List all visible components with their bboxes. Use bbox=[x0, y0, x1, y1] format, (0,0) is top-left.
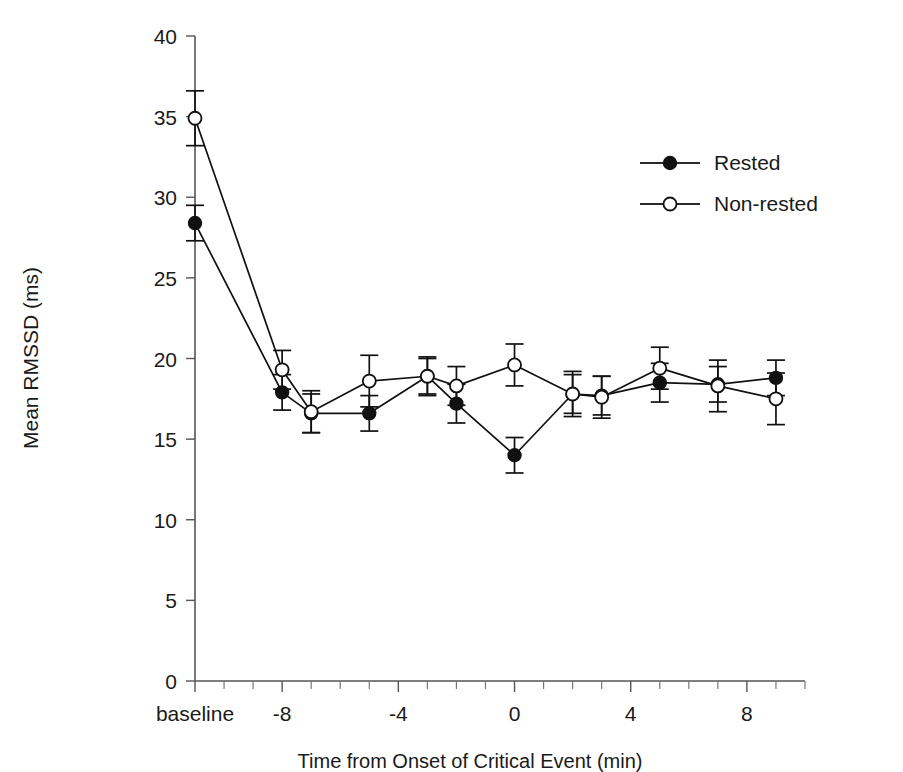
data-point-marker bbox=[189, 217, 202, 230]
series-layer bbox=[186, 91, 785, 473]
y-tick-label-5: 5 bbox=[165, 589, 177, 612]
data-point-marker bbox=[421, 370, 434, 383]
y-tick-label-35: 35 bbox=[154, 106, 177, 129]
data-point-marker bbox=[276, 363, 289, 376]
x-tick-group bbox=[195, 681, 805, 692]
data-point-marker bbox=[508, 449, 521, 462]
x-tick-label-8: 8 bbox=[741, 702, 753, 725]
legend-filled-circle-icon bbox=[664, 157, 677, 170]
y-tick-label-40: 40 bbox=[154, 25, 177, 48]
series-rested bbox=[186, 205, 785, 473]
chart-canvas: 0510152025303540 baseline-8-4048 Mean RM… bbox=[0, 0, 903, 772]
legend-label: Non-rested bbox=[714, 192, 818, 215]
y-tick-label-0: 0 bbox=[165, 670, 177, 693]
chart-legend: RestedNon-rested bbox=[640, 151, 818, 215]
series-line bbox=[195, 223, 776, 455]
y-tick-group bbox=[186, 36, 195, 681]
data-point-marker bbox=[711, 379, 724, 392]
y-axis-title: Mean RMSSD (ms) bbox=[19, 267, 42, 449]
data-point-marker bbox=[363, 375, 376, 388]
y-tick-label-15: 15 bbox=[154, 428, 177, 451]
data-point-marker bbox=[450, 379, 463, 392]
x-axis-caption: Time from Onset of Critical Event (min) bbox=[298, 750, 643, 772]
x-tick-label--4: -4 bbox=[389, 702, 408, 725]
data-point-marker bbox=[566, 387, 579, 400]
legend-label: Rested bbox=[714, 151, 781, 174]
data-point-marker bbox=[653, 362, 666, 375]
y-tick-label-25: 25 bbox=[154, 267, 177, 290]
legend-item-non-rested[interactable]: Non-rested bbox=[640, 192, 818, 215]
y-tick-label-group: 0510152025303540 bbox=[154, 25, 177, 693]
legend-item-rested[interactable]: Rested bbox=[640, 151, 781, 174]
y-axis: 0510152025303540 bbox=[154, 25, 195, 693]
chart-figure: 0510152025303540 baseline-8-4048 Mean RM… bbox=[0, 0, 903, 772]
y-tick-label-10: 10 bbox=[154, 509, 177, 532]
x-tick-label-0: 0 bbox=[509, 702, 521, 725]
data-point-marker bbox=[189, 112, 202, 125]
x-axis: baseline-8-4048 bbox=[156, 681, 805, 725]
x-tick-label--8: -8 bbox=[273, 702, 292, 725]
y-tick-label-30: 30 bbox=[154, 186, 177, 209]
data-point-marker bbox=[363, 407, 376, 420]
data-point-marker bbox=[508, 358, 521, 371]
x-tick-label-4: 4 bbox=[625, 702, 637, 725]
data-point-marker bbox=[769, 392, 782, 405]
x-tick-label-baseline: baseline bbox=[156, 702, 234, 725]
legend-open-circle-icon bbox=[664, 198, 677, 211]
data-point-marker bbox=[305, 405, 318, 418]
data-point-marker bbox=[595, 391, 608, 404]
y-tick-label-20: 20 bbox=[154, 348, 177, 371]
x-tick-label-group: baseline-8-4048 bbox=[156, 702, 753, 725]
